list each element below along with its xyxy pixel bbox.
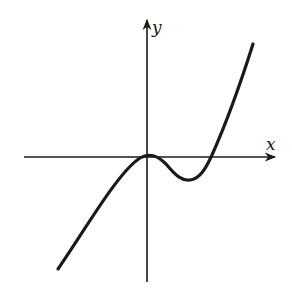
x-axis-label: x bbox=[266, 134, 276, 154]
y-axis-label: y bbox=[151, 17, 162, 37]
cubic-graph: y x bbox=[0, 0, 292, 295]
